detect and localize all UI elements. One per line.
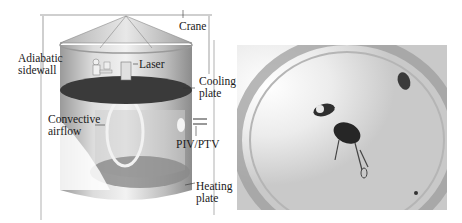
label-piv-ptv: PIV/PTV: [176, 138, 219, 150]
label-convective-airflow-line2: airflow: [48, 125, 81, 137]
label-adiabatic-sidewall-line1: Adiabatic: [18, 52, 63, 64]
label-heating-plate-line1: Heating: [196, 180, 232, 192]
label-crane: Crane: [179, 20, 206, 32]
photograph-panel: [237, 45, 447, 210]
label-convective-airflow-line1: Convective: [48, 113, 100, 125]
label-cooling-plate-line1: Cooling: [199, 75, 236, 87]
label-laser: Laser: [139, 58, 165, 70]
label-heating-plate-line2: plate: [196, 192, 218, 204]
cell-interior-photo: [237, 45, 447, 210]
schematic-panel: Crane Adiabatic sidewall Laser Cooling p…: [0, 0, 232, 223]
label-adiabatic-sidewall-line2: sidewall: [18, 64, 56, 76]
label-cooling-plate-line2: plate: [199, 87, 221, 99]
